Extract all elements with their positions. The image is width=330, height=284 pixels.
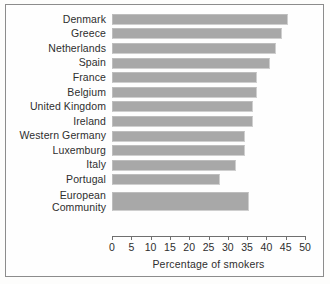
bar-row-label: Belgium <box>14 87 112 99</box>
x-axis-tick <box>286 236 287 240</box>
bar <box>112 116 253 127</box>
x-axis-tick <box>247 236 248 240</box>
bar-track <box>112 41 314 56</box>
plot-area: DenmarkGreeceNetherlandsSpainFranceBelgi… <box>0 0 330 284</box>
bar-track <box>112 143 314 158</box>
x-axis-tick <box>228 236 229 240</box>
bar-row-label: Italy <box>14 159 112 171</box>
bar-rows: DenmarkGreeceNetherlandsSpainFranceBelgi… <box>14 12 314 216</box>
bar-row: Italy <box>14 158 314 173</box>
bar-row: Western Germany <box>14 129 314 144</box>
x-axis-tick-label: 10 <box>145 241 157 253</box>
bar-row-label: Luxemburg <box>14 145 112 157</box>
smoking-bar-chart: DenmarkGreeceNetherlandsSpainFranceBelgi… <box>0 0 330 284</box>
bar <box>112 14 288 25</box>
x-axis-tick-label: 30 <box>222 241 234 253</box>
bar-row-label: France <box>14 72 112 84</box>
x-axis-tick-label: 50 <box>299 241 311 253</box>
x-axis-tick-label: 0 <box>109 241 115 253</box>
x-axis-tick <box>131 236 132 240</box>
bar-row-label: Western Germany <box>14 130 112 142</box>
bar <box>112 58 270 69</box>
bar-track <box>112 12 314 27</box>
bar-row: European Community <box>14 187 314 216</box>
bar-row-label: Denmark <box>14 14 112 26</box>
bar-track <box>112 187 314 216</box>
x-axis-tick-label: 15 <box>164 241 176 253</box>
bar-track <box>112 85 314 100</box>
bar-row: United Kingdom <box>14 100 314 115</box>
x-axis-tick <box>112 236 113 240</box>
x-axis-tick-label: 45 <box>280 241 292 253</box>
bar-track <box>112 158 314 173</box>
bar <box>112 28 282 39</box>
bar <box>112 145 245 156</box>
bar-row: Spain <box>14 56 314 71</box>
bar-row-label: Portugal <box>14 174 112 186</box>
bar-row-label: United Kingdom <box>14 101 112 113</box>
bar-row-label: Greece <box>14 28 112 40</box>
x-axis-tick <box>151 236 152 240</box>
bar-row-label: Ireland <box>14 116 112 128</box>
bar <box>112 87 257 98</box>
x-axis-tick <box>209 236 210 240</box>
bar-row: Belgium <box>14 85 314 100</box>
x-axis-tick-label: 25 <box>203 241 215 253</box>
x-axis-title: Percentage of smokers <box>112 258 305 270</box>
bar-row: Denmark <box>14 12 314 27</box>
bar-row: Netherlands <box>14 41 314 56</box>
bar <box>112 72 257 83</box>
bar-track <box>112 27 314 42</box>
bar-row-label: Spain <box>14 57 112 69</box>
bar-track <box>112 114 314 129</box>
bar <box>112 174 220 185</box>
bar-row-label: Netherlands <box>14 43 112 55</box>
bar-row: Greece <box>14 27 314 42</box>
bar <box>112 43 276 54</box>
x-axis-tick-label: 20 <box>183 241 195 253</box>
bar <box>112 192 249 211</box>
x-axis-tick-label: 5 <box>128 241 134 253</box>
x-axis: 05101520253035404550 <box>112 236 305 237</box>
bar <box>112 131 245 142</box>
x-axis-tick-label: 35 <box>241 241 253 253</box>
x-axis-tick-label: 40 <box>261 241 273 253</box>
bar-track <box>112 129 314 144</box>
bar-row: Ireland <box>14 114 314 129</box>
x-axis-tick <box>189 236 190 240</box>
bar-track <box>112 100 314 115</box>
bar-track <box>112 56 314 71</box>
bar <box>112 160 236 171</box>
bar-row: Luxemburg <box>14 143 314 158</box>
bar <box>112 101 253 112</box>
bar-row-label: European Community <box>14 190 112 213</box>
x-axis-tick <box>266 236 267 240</box>
bar-track <box>112 173 314 188</box>
x-axis-tick <box>305 236 306 240</box>
bar-track <box>112 70 314 85</box>
bar-row: Portugal <box>14 173 314 188</box>
bar-row: France <box>14 70 314 85</box>
x-axis-tick <box>170 236 171 240</box>
